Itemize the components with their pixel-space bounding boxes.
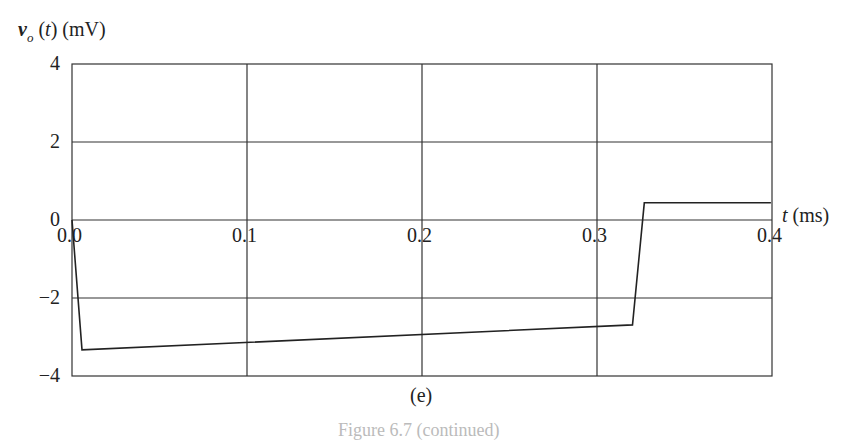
y-var-subscript: o (27, 30, 34, 45)
y-var: v (18, 18, 27, 40)
grid (72, 64, 772, 376)
x-tick-label: 0.0 (57, 224, 82, 247)
y-arg: (t) (38, 18, 57, 40)
x-tick-label: 0.2 (407, 224, 432, 247)
x-unit: (ms) (793, 204, 830, 226)
y-unit: (mV) (62, 18, 105, 40)
y-tick-label: 4 (50, 52, 60, 75)
x-tick-label: 0.3 (582, 224, 607, 247)
x-var: t (782, 204, 788, 226)
y-tick-label: −4 (39, 364, 60, 387)
x-axis-label: t (ms) (782, 204, 829, 227)
y-axis-label: vo (t) (mV) (18, 18, 106, 41)
panel-label: (e) (410, 384, 432, 407)
figure-caption: Figure 6.7 (continued) (338, 420, 499, 441)
x-tick-label: 0.4 (757, 224, 782, 247)
x-tick-label: 0.1 (232, 224, 257, 247)
y-tick-label: 2 (50, 130, 60, 153)
y-tick-label: −2 (39, 286, 60, 309)
